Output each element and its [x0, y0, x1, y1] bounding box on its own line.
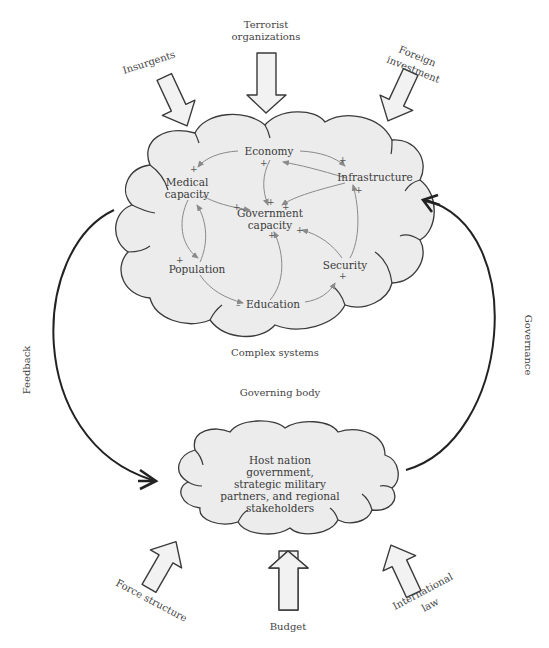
international-label-line2: law	[420, 596, 441, 614]
svg-text:+: +	[260, 158, 268, 168]
governing-line2: government,	[246, 466, 313, 478]
svg-text:+: +	[176, 255, 184, 265]
svg-text:+: +	[282, 202, 290, 212]
budget-label: Budget	[270, 621, 307, 632]
svg-text:+: +	[268, 230, 276, 240]
svg-text:+: +	[339, 271, 347, 281]
force-structure-arrow-icon	[133, 533, 191, 598]
complex-systems-diagram: Insurgents Terrorist organizations Forei…	[0, 0, 549, 648]
node-education: Education	[246, 298, 300, 310]
terrorist-arrow-icon	[247, 53, 286, 113]
node-economy: Economy	[245, 145, 294, 157]
governing-line5: stakeholders	[246, 502, 314, 514]
node-government-line1: Government	[237, 207, 304, 219]
node-medical-line1: Medical	[166, 176, 209, 188]
terrorist-label-line2: organizations	[232, 31, 301, 42]
node-security: Security	[323, 259, 368, 271]
svg-text:+: +	[296, 225, 304, 235]
node-infrastructure: Infrastructure	[337, 171, 413, 183]
svg-text:–: –	[236, 300, 241, 310]
governance-label: Governance	[523, 315, 534, 376]
governing-body-caption: Governing body	[240, 387, 321, 398]
complex-systems-caption: Complex systems	[231, 347, 319, 358]
svg-text:+: +	[355, 185, 363, 195]
svg-text:+: +	[339, 155, 347, 165]
svg-text:+: +	[233, 202, 241, 212]
governing-line3: strategic military	[234, 478, 326, 490]
governing-line1: Host nation	[249, 454, 311, 466]
governing-line4: partners, and regional	[220, 490, 340, 502]
terrorist-label-line1: Terrorist	[244, 19, 289, 30]
svg-text:+: +	[190, 164, 198, 174]
feedback-label: Feedback	[21, 345, 32, 395]
insurgents-arrow-icon	[148, 69, 203, 133]
svg-text:+: +	[267, 197, 275, 207]
node-medical-line2: capacity	[165, 188, 210, 200]
insurgents-label: Insurgents	[121, 49, 176, 76]
budget-arrow-icon	[269, 551, 308, 610]
